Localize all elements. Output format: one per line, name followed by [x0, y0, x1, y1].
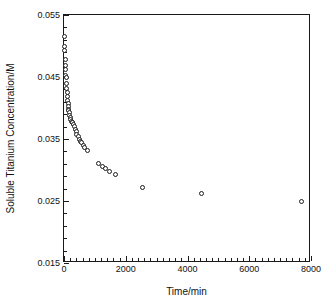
data-point-marker: [62, 48, 67, 53]
plot-area: 0.0150.0250.0350.0450.055020004000600080…: [63, 14, 310, 262]
y-axis-tick-label: 0.055: [37, 11, 60, 20]
data-point-marker: [199, 191, 204, 196]
y-axis-tick-label: 0.025: [37, 197, 60, 206]
x-axis-tick-label: 6000: [239, 265, 259, 274]
data-point-marker: [63, 57, 68, 62]
y-axis-tick-label: 0.035: [37, 135, 60, 144]
x-axis-tick-label: 2000: [116, 265, 136, 274]
data-point-marker: [113, 172, 118, 177]
x-axis-tick-label: 0: [61, 265, 66, 274]
x-axis-tick-label: 4000: [177, 265, 197, 274]
scatter-chart-figure: Soluble Titanium Concentration/M 0.0150.…: [0, 0, 335, 306]
data-point-marker: [64, 75, 69, 80]
x-axis-title-text: Time/min: [166, 286, 207, 297]
y-axis-title: Soluble Titanium Concentration/M: [4, 14, 16, 262]
y-axis-title-text: Soluble Titanium Concentration/M: [5, 63, 16, 213]
x-axis-title: Time/min: [63, 286, 310, 297]
x-axis-tick-major: [311, 256, 312, 261]
data-point-layer: [64, 15, 309, 261]
y-axis-tick-label: 0.045: [37, 73, 60, 82]
y-axis-tick-label: 0.015: [37, 259, 60, 268]
data-point-marker: [107, 169, 112, 174]
data-point-marker: [85, 148, 90, 153]
data-point-marker: [299, 199, 304, 204]
data-point-marker: [63, 67, 68, 72]
data-point-marker: [62, 34, 67, 39]
data-point-marker: [140, 185, 145, 190]
x-axis-tick-label: 8000: [301, 265, 321, 274]
data-point-marker: [64, 81, 69, 86]
